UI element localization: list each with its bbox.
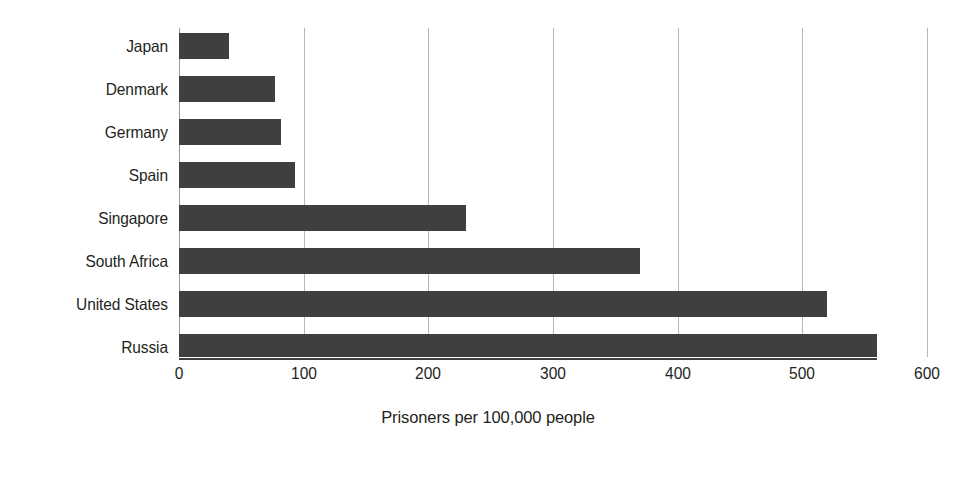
bar-row — [179, 71, 927, 114]
bar-row — [179, 114, 927, 157]
category-label: United States — [0, 296, 168, 313]
x-tick-label-400: 400 — [649, 364, 705, 382]
category-label: Japan — [0, 38, 168, 55]
plot-area — [179, 28, 927, 357]
bar-row — [179, 243, 927, 286]
category-label: Denmark — [0, 81, 168, 98]
bar — [179, 205, 466, 231]
category-label: Germany — [0, 124, 168, 141]
bar-row — [179, 286, 927, 329]
bar — [179, 119, 281, 145]
x-axis-title: Prisoners per 100,000 people — [0, 408, 976, 427]
x-tick-label-500: 500 — [774, 364, 830, 382]
category-label: Singapore — [0, 210, 168, 227]
x-axis-baseline — [179, 357, 928, 358]
category-label: Spain — [0, 167, 168, 184]
x-tick-label-100: 100 — [275, 364, 331, 382]
bar — [179, 162, 295, 188]
bar-chart-figure: JapanDenmarkGermanySpainSingaporeSouth A… — [0, 0, 976, 491]
category-label: Russia — [0, 339, 168, 356]
bar-row — [179, 28, 927, 71]
x-tick-label-0: 0 — [151, 364, 207, 382]
bar — [179, 248, 640, 274]
bar — [179, 76, 275, 102]
bar-row — [179, 157, 927, 200]
gridline-600 — [927, 28, 928, 357]
x-tick-label-200: 200 — [400, 364, 456, 382]
category-label: South Africa — [0, 253, 168, 270]
x-tick-label-600: 600 — [899, 364, 955, 382]
bar — [179, 33, 229, 59]
x-tick-label-300: 300 — [525, 364, 581, 382]
bar-row — [179, 200, 927, 243]
bar — [179, 291, 827, 317]
